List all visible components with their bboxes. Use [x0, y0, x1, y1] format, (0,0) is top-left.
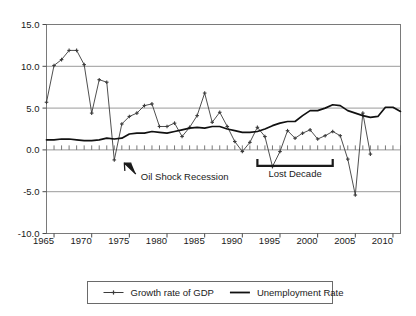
x-tick-label: 1965 — [33, 235, 54, 246]
annotation-oil-shock-label: Oil Shock Recession — [141, 171, 229, 182]
x-tick-label: 1975 — [108, 235, 129, 246]
y-tick-label: 15.0 — [21, 19, 40, 30]
x-tick-label: 1985 — [184, 235, 205, 246]
x-tick-label: 2010 — [372, 235, 393, 246]
chart-figure: 15.010.05.00.0-5.0-10.0 1965197019751980… — [0, 0, 416, 316]
chart-legend: Growth rate of GDPUnemployment Rate — [88, 282, 344, 304]
economic-line-chart: 15.010.05.00.0-5.0-10.0 1965197019751980… — [0, 0, 416, 316]
y-tick-label: 5.0 — [26, 103, 39, 114]
x-tick-label: 2005 — [334, 235, 355, 246]
y-tick-label: 0.0 — [26, 144, 39, 155]
y-tick-label: -5.0 — [23, 186, 39, 197]
x-tick-label: 1970 — [71, 235, 92, 246]
legend-label: Growth rate of GDP — [131, 287, 214, 298]
y-tick-label: 10.0 — [21, 61, 40, 72]
x-tick-label: 1980 — [146, 235, 167, 246]
x-tick-label: 2000 — [297, 235, 318, 246]
annotation-lost-decade-label: Lost Decade — [268, 168, 321, 179]
chart-background — [0, 0, 416, 316]
x-tick-label: 1990 — [221, 235, 242, 246]
x-tick-label: 1995 — [259, 235, 280, 246]
legend-label: Unemployment Rate — [257, 287, 344, 298]
